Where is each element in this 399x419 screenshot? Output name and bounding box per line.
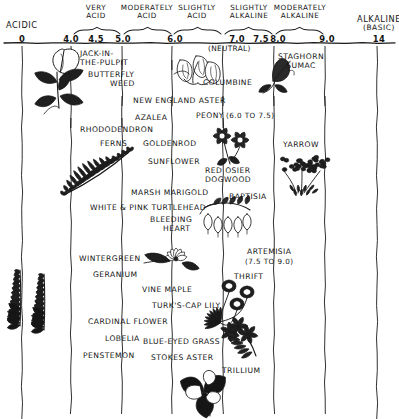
- plant-label-line: GOLDENROD: [143, 140, 197, 149]
- plant-label-line: NEW ENGLAND ASTER: [133, 97, 226, 106]
- axis-tick-7-0: 7.0: [224, 35, 250, 44]
- plant-label-ferns: FERNS: [100, 140, 127, 149]
- plant-label-penstemon: PENSTEMON: [83, 352, 135, 361]
- plant-label-line: VINE MAPLE: [142, 286, 192, 295]
- plant-label-red-osier-dogwood: RED OSIERDOGWOOD: [205, 167, 251, 184]
- plant-label-line: LOBELIA: [105, 335, 140, 344]
- gridline-0: [21, 46, 22, 419]
- axis-tick-9-0: 9.0: [314, 35, 340, 44]
- plant-label-bleeding-heart: BLEEDINGHEART: [150, 216, 192, 233]
- plant-label-line: PEONY: [196, 112, 224, 121]
- axis-tick-0: 0: [9, 35, 35, 44]
- plant-label-line: ARTEMISIA: [247, 248, 291, 257]
- plant-label-turk-s-cap-lily: TURK'S-CAP LILY: [152, 302, 221, 311]
- alkaline-sub: (BASIC): [349, 24, 399, 32]
- axis-tick-8-0: 8.0: [265, 35, 291, 44]
- plant-label-vine-maple: VINE MAPLE: [142, 286, 192, 295]
- plant-label-jack-in-the-pulpit: JACK-IN-THE-PULPIT: [80, 50, 128, 67]
- plant-label-new-england-aster: NEW ENGLAND ASTER: [133, 97, 226, 106]
- plant-label-line: SUMAC: [278, 62, 324, 71]
- plant-label-7-5-to-9-0: (7.5 TO 9.0): [245, 258, 294, 266]
- plant-label-line: MARSH MARIGOLD: [131, 189, 208, 198]
- plant-label-line: WEED: [88, 80, 135, 89]
- plant-label-geranium: GERANIUM: [93, 271, 137, 280]
- plant-label-stokes-aster: STOKES ASTER: [151, 354, 214, 363]
- plant-label-lobelia: LOBELIA: [105, 335, 140, 344]
- gridline-7: [376, 46, 377, 419]
- plant-label-line: BLUE-EYED GRASS: [143, 338, 220, 347]
- plant-label-trillium: TRILLIUM: [222, 367, 261, 376]
- axis-tick-5-0: 5.0: [110, 35, 136, 44]
- category-brace-3: [225, 27, 272, 34]
- plant-label-6-0-to-7-5: (6.0 TO 7.5): [226, 112, 275, 120]
- plant-label-staghorn-sumac: STAGHORNSUMAC: [278, 53, 324, 70]
- neutral-label: (NEUTRAL): [208, 45, 251, 53]
- plant-label-artemisia: ARTEMISIA: [247, 248, 291, 257]
- plant-label-white-pink-turtlehead: WHITE & PINK TURTLEHEAD: [90, 204, 206, 213]
- plant-label-columbine: COLUMBINE: [203, 79, 252, 88]
- plant-label-azalea: AZALEA: [135, 114, 168, 123]
- plant-label-line: YARROW: [283, 141, 319, 150]
- plant-label-line: GERANIUM: [93, 271, 137, 280]
- illustration-yarrow: [280, 155, 330, 196]
- plant-label-line: COLUMBINE: [203, 79, 252, 88]
- plant-label-rhododendron: RHODODENDRON: [80, 126, 153, 135]
- plant-label-yarrow: YARROW: [283, 141, 319, 150]
- plant-label-line: (7.5 TO 9.0): [245, 258, 294, 266]
- illustration-cardinal-flower: [7, 269, 45, 335]
- plant-label-line: RHODODENDRON: [80, 126, 153, 135]
- category-brace-0: [74, 27, 120, 34]
- illustration-turks-cap-lily: [220, 316, 258, 359]
- plant-label-thrift: THRIFT: [234, 273, 263, 282]
- illustration-red-osier-dogwood: [213, 127, 249, 167]
- plant-label-line: PENSTEMON: [83, 352, 135, 361]
- axis-tick-4-5: 4.5: [83, 35, 109, 44]
- category-brace-1: [124, 27, 171, 34]
- plant-label-line: CARDINAL FLOWER: [88, 318, 168, 327]
- illustration-jack-in-the-pulpit: [33, 49, 85, 114]
- plant-label-line: SUNFLOWER: [148, 158, 200, 167]
- plant-label-line: AZALEA: [135, 114, 168, 123]
- plant-label-peony: PEONY: [196, 112, 224, 121]
- plant-label-line: BAPTISIA: [229, 193, 267, 202]
- plant-label-cardinal-flower: CARDINAL FLOWER: [88, 318, 168, 327]
- plant-label-line: THE-PULPIT: [80, 59, 128, 68]
- axis-end-label-alkaline: ALKALINE(BASIC): [349, 15, 399, 32]
- category-brace-2: [174, 27, 221, 34]
- axis-end-label-acidic: ACIDIC: [6, 21, 38, 30]
- category-label-line2: ALKALINE: [265, 12, 335, 20]
- plant-label-line: FERNS: [100, 140, 127, 149]
- plant-label-butterfly-weed: BUTTERFLYWEED: [88, 71, 135, 88]
- plant-label-marsh-marigold: MARSH MARIGOLD: [131, 189, 208, 198]
- plant-label-goldenrod: GOLDENROD: [143, 140, 197, 149]
- plant-label-line: TRILLIUM: [222, 367, 261, 376]
- plant-label-line: (6.0 TO 7.5): [226, 112, 275, 120]
- plant-label-line: WHITE & PINK TURTLEHEAD: [90, 204, 206, 213]
- plant-label-line: WINTERGREEN: [79, 255, 141, 264]
- plant-label-wintergreen: WINTERGREEN: [79, 255, 141, 264]
- plant-label-baptisia: BAPTISIA: [229, 193, 267, 202]
- category-label-5: MODERATELYALKALINE: [265, 4, 335, 20]
- axis-tick-6-0: 6.0: [162, 35, 188, 44]
- plant-label-blue-eyed-grass: BLUE-EYED GRASS: [143, 338, 220, 347]
- plant-label-line: HEART: [150, 225, 192, 234]
- plant-label-line: DOGWOOD: [205, 176, 251, 185]
- plant-label-line: THRIFT: [234, 273, 263, 282]
- axis-tick-14: 14: [366, 35, 392, 44]
- category-brace-4: [276, 27, 323, 34]
- plant-label-line: TURK'S-CAP LILY: [152, 302, 221, 311]
- axis-tick-4-0: 4.0: [58, 35, 84, 44]
- plant-label-line: STOKES ASTER: [151, 354, 214, 363]
- plant-label-sunflower: SUNFLOWER: [148, 158, 200, 167]
- ph-plant-chart: VERYACIDMODERATELYACIDSLIGHTLYACIDSLIGHT…: [0, 0, 399, 419]
